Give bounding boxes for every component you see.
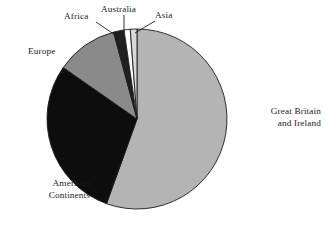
slice-label-australia: Australia [101, 4, 136, 16]
slice-label-great-britain-and-ireland: Great Britain and Ireland [239, 106, 321, 129]
slice-label-american-continents: American Continents [4, 178, 90, 201]
slice-label-europe: Europe [28, 46, 55, 58]
slice-label-asia: Asia [155, 10, 172, 22]
slice-label-line-2: and Ireland [239, 118, 321, 130]
slice-label-africa: Africa [64, 11, 88, 23]
slice-label-line-2: Continents [4, 190, 90, 202]
pie-chart-figure: Great Britain and Ireland American Conti… [0, 0, 326, 229]
slice-label-line-1: Great Britain [239, 106, 321, 118]
slice-label-line-1: American [4, 178, 90, 190]
